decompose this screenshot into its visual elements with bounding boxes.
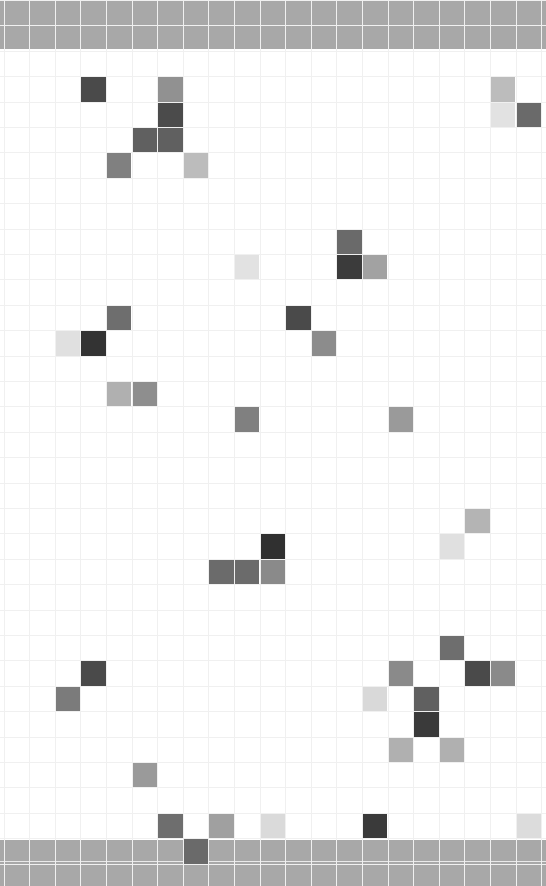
grid-cell[interactable] bbox=[234, 254, 260, 279]
grid-cell[interactable] bbox=[80, 330, 106, 355]
grid-cell[interactable] bbox=[490, 76, 516, 101]
grid-cell[interactable] bbox=[55, 330, 81, 355]
grid-cell[interactable] bbox=[157, 102, 183, 127]
grid-cell[interactable] bbox=[464, 660, 490, 685]
grid-cell[interactable] bbox=[106, 305, 132, 330]
grid-cell[interactable] bbox=[234, 559, 260, 584]
grid-cell[interactable] bbox=[362, 686, 388, 711]
grid-cell[interactable] bbox=[132, 127, 158, 152]
grid-cell[interactable] bbox=[132, 381, 158, 406]
grid-cell[interactable] bbox=[106, 152, 132, 177]
grid-cell[interactable] bbox=[362, 813, 388, 838]
grid-cell[interactable] bbox=[183, 838, 209, 863]
grid-cell[interactable] bbox=[490, 102, 516, 127]
grid-cell[interactable] bbox=[388, 737, 414, 762]
grid-cell[interactable] bbox=[336, 254, 362, 279]
grid-cell[interactable] bbox=[336, 229, 362, 254]
grid-cell[interactable] bbox=[464, 508, 490, 533]
grid-cell[interactable] bbox=[285, 305, 311, 330]
grid-cell[interactable] bbox=[234, 406, 260, 431]
grid-cell[interactable] bbox=[80, 660, 106, 685]
grid-cell[interactable] bbox=[208, 813, 234, 838]
grid-cell[interactable] bbox=[388, 660, 414, 685]
grid-cell[interactable] bbox=[516, 102, 542, 127]
grid-cell[interactable] bbox=[439, 635, 465, 660]
grid-cell[interactable] bbox=[490, 660, 516, 685]
grid-cell[interactable] bbox=[208, 559, 234, 584]
grid-cell[interactable] bbox=[260, 813, 286, 838]
grid-cell[interactable] bbox=[439, 737, 465, 762]
grid-cell[interactable] bbox=[311, 330, 337, 355]
grid-cell[interactable] bbox=[413, 686, 439, 711]
grid-cell[interactable] bbox=[260, 559, 286, 584]
grid-cell[interactable] bbox=[183, 152, 209, 177]
grid-cell[interactable] bbox=[362, 254, 388, 279]
grid-canvas bbox=[0, 0, 546, 886]
grid-cell[interactable] bbox=[132, 762, 158, 787]
grid-cell[interactable] bbox=[80, 76, 106, 101]
grid-cell[interactable] bbox=[55, 686, 81, 711]
grid-cell[interactable] bbox=[157, 127, 183, 152]
grid-cell[interactable] bbox=[413, 711, 439, 736]
grid-cell[interactable] bbox=[388, 406, 414, 431]
cell-layer bbox=[0, 0, 546, 886]
grid-cell[interactable] bbox=[106, 381, 132, 406]
grid-cell[interactable] bbox=[157, 76, 183, 101]
grid-cell[interactable] bbox=[260, 533, 286, 558]
grid-cell[interactable] bbox=[516, 813, 542, 838]
grid-cell[interactable] bbox=[157, 813, 183, 838]
grid-cell[interactable] bbox=[439, 533, 465, 558]
